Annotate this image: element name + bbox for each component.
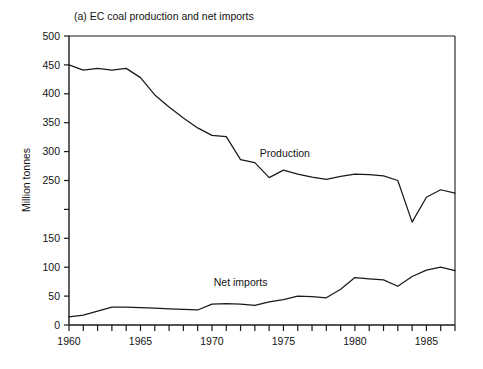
x-tick-label: 1980: [343, 335, 367, 347]
y-axis-title: Million tonnes: [20, 148, 32, 212]
y-tick-label: 350: [42, 116, 60, 128]
y-tick-label: 50: [48, 290, 60, 302]
y-tick-label: 300: [42, 145, 60, 157]
annotation-production: Production: [260, 147, 310, 159]
coal-production-line-chart: (a) EC coal production and net imports M…: [0, 0, 483, 369]
y-tick-label: 450: [42, 59, 60, 71]
y-tick-label: 500: [42, 30, 60, 42]
x-tick-label: 1965: [129, 335, 153, 347]
chart-title: (a) EC coal production and net imports: [74, 10, 254, 22]
x-tick-label: 1960: [57, 335, 81, 347]
chart-background: [0, 0, 483, 369]
chart-figure: (a) EC coal production and net imports M…: [0, 0, 483, 369]
x-tick-label: 1985: [415, 335, 439, 347]
annotation-net-imports: Net imports: [214, 276, 268, 288]
y-tick-label: 0: [54, 319, 60, 331]
y-tick-label: 250: [42, 174, 60, 186]
x-tick-label: 1975: [272, 335, 296, 347]
y-tick-label: 100: [42, 261, 60, 273]
y-tick-label: 150: [42, 232, 60, 244]
y-tick-label: 400: [42, 87, 60, 99]
x-tick-label: 1970: [200, 335, 224, 347]
